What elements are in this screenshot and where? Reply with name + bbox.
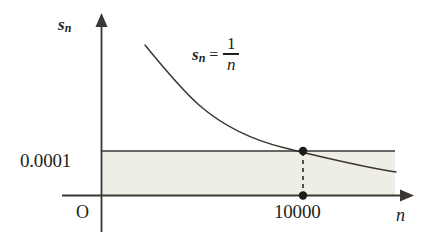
equation-fraction: 1 n <box>223 35 239 73</box>
y-axis-tick-label: 0.0001 <box>20 151 71 170</box>
y-axis-name: sn <box>58 16 71 33</box>
x-axis-name: n <box>396 206 405 224</box>
equation-lhs-subscript: n <box>199 51 206 65</box>
origin-label: O <box>76 203 89 221</box>
equation-equals-sign: = <box>209 47 218 63</box>
fraction-denominator: n <box>227 55 236 73</box>
figure-container: sn n O 0.0001 10000 sn = 1 n <box>0 0 425 250</box>
y-axis-name-subscript: n <box>65 21 72 35</box>
curve-axis-intersection-dot <box>299 147 307 155</box>
x-axis-tick-label: 10000 <box>274 202 321 221</box>
arrow-right-icon <box>400 190 414 202</box>
fraction-numerator: 1 <box>227 35 236 53</box>
equation-lhs-main: s <box>192 45 199 64</box>
arrow-up-icon <box>96 13 108 27</box>
y-axis-name-main: s <box>58 15 65 34</box>
shaded-band <box>101 151 395 195</box>
equation-annotation: sn = 1 n <box>192 36 239 74</box>
equation-lhs: sn <box>192 46 205 63</box>
x-axis-tick-dot <box>299 191 307 199</box>
